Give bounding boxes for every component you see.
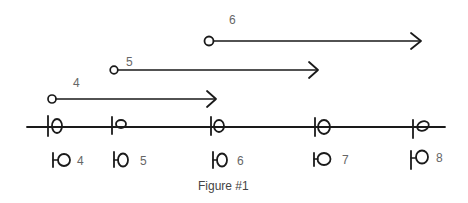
timeline-tick-2 — [112, 117, 126, 134]
arrow-6: 6 — [205, 13, 422, 49]
legend-glyph-8: 8 — [411, 151, 443, 170]
lollipop-head-icon — [217, 154, 227, 167]
figure-caption: Figure #1 — [198, 179, 249, 193]
legend-label-8: 8 — [436, 151, 443, 165]
arrow-label-5: 5 — [126, 55, 133, 69]
legend-label-7: 7 — [342, 153, 349, 167]
arrow-4: 4 — [48, 76, 216, 107]
timeline-tick-1 — [48, 116, 62, 136]
lollipop-head-icon — [118, 154, 128, 167]
legend-glyph-6: 6 — [213, 152, 244, 168]
arrow-label-4: 4 — [73, 76, 80, 90]
lollipop-head-icon — [318, 153, 331, 165]
arrow-label-6: 6 — [229, 13, 236, 27]
arrow-5: 5 — [110, 55, 318, 78]
loop-icon — [52, 119, 62, 133]
legend-glyph-7: 7 — [314, 153, 349, 167]
legend-label-6: 6 — [237, 154, 244, 168]
lollipop-head-icon — [416, 151, 428, 164]
arrow-start-circle-icon — [48, 95, 56, 103]
timeline-tick-3 — [211, 117, 224, 135]
legend-glyph-4: 4 — [53, 153, 84, 168]
legend-glyph-5: 5 — [114, 152, 147, 168]
arrow-start-circle-icon — [205, 37, 214, 46]
arrow-start-circle-icon — [110, 66, 118, 74]
figure-diagram: 6 5 4 4 — [0, 0, 468, 203]
loop-icon — [416, 119, 431, 132]
lollipop-head-icon — [58, 154, 70, 166]
legend-label-4: 4 — [77, 154, 84, 168]
loop-icon — [214, 120, 224, 132]
legend-label-5: 5 — [140, 154, 147, 168]
timeline-tick-5 — [413, 119, 430, 138]
